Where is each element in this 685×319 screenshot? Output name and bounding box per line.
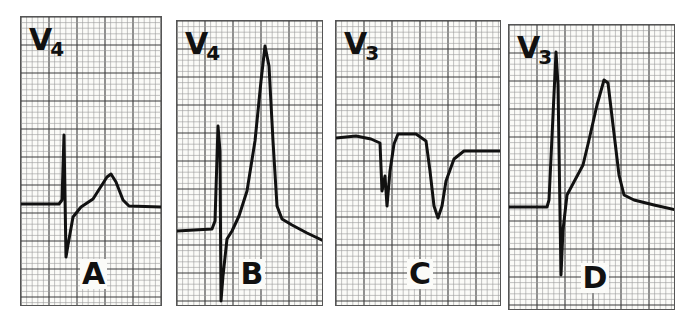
ecg-panel-a: V4 A bbox=[20, 16, 162, 306]
lead-label: V3 bbox=[517, 33, 552, 63]
lead-number: 4 bbox=[206, 41, 220, 65]
lead-number: 3 bbox=[538, 45, 552, 69]
lead-letter: V bbox=[29, 22, 52, 57]
ecg-panel-d: V3 D bbox=[508, 24, 675, 310]
lead-letter: V bbox=[344, 26, 367, 61]
lead-label: V4 bbox=[29, 25, 64, 55]
lead-number: 4 bbox=[50, 37, 64, 61]
lead-label: V3 bbox=[344, 29, 379, 59]
panel-letter: B bbox=[239, 259, 266, 289]
panel-letter: A bbox=[80, 259, 107, 289]
lead-number: 3 bbox=[365, 41, 379, 65]
ecg-panel-b: V4 B bbox=[176, 20, 323, 306]
panel-letter: C bbox=[407, 259, 433, 289]
lead-label: V4 bbox=[185, 29, 220, 59]
lead-letter: V bbox=[185, 26, 208, 61]
ecg-panel-c: V3 C bbox=[335, 20, 501, 306]
lead-letter: V bbox=[517, 30, 540, 65]
ecg-trace bbox=[509, 52, 675, 275]
panel-letter: D bbox=[581, 263, 610, 293]
